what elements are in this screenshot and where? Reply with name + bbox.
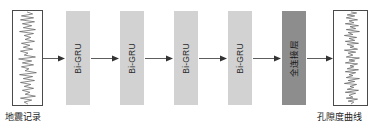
seismic-record-box [12,10,43,106]
layer-block-bigru-2[interactable]: Bi-GRU [120,11,144,105]
layer-label-bigru-3: Bi-GRU [182,43,191,73]
porosity-curve-caption: 孔隙度曲线 [317,112,362,123]
layer-block-bigru-3[interactable]: Bi-GRU [174,11,198,105]
seismic-record-caption: 地震记录 [5,112,41,123]
arrow-dense-to-output [307,55,333,62]
arrow-bigru2-to-bigru3 [145,55,173,62]
layer-block-dense-1[interactable]: 全连接层 [282,11,306,105]
layer-label-bigru-4: Bi-GRU [236,43,245,73]
layer-label-bigru-1: Bi-GRU [74,43,83,73]
layer-block-bigru-4[interactable]: Bi-GRU [228,11,252,105]
arrow-bigru3-to-bigru4 [199,55,227,62]
layer-label-bigru-2: Bi-GRU [128,43,137,73]
arrow-input-to-bigru1 [43,55,65,62]
arrow-bigru4-to-dense [253,55,281,62]
network-architecture-diagram: 地震记录 Bi-GRU Bi-GRU Bi-GRU Bi-GRU 全连接层 [0,0,381,133]
arrow-bigru1-to-bigru2 [91,55,119,62]
porosity-curve-box [333,10,368,106]
porosity-curve-icon [334,11,367,105]
seismic-waveform-icon [13,11,42,105]
layer-block-bigru-1[interactable]: Bi-GRU [66,11,90,105]
layer-label-dense-1: 全连接层 [290,40,299,77]
